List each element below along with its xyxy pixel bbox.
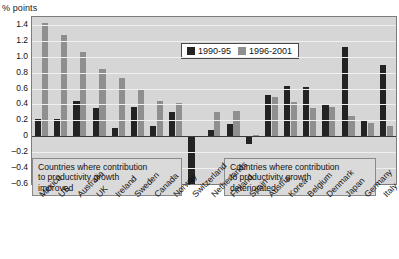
gridline [32,104,396,105]
gridline [32,120,396,121]
bar-canada-1996-2001 [157,101,163,137]
y-axis-tick-label: 0.6 [2,84,28,92]
bar-japan-1990-95 [342,47,348,136]
gridline [32,152,396,153]
bar-ireland-1990-95 [112,128,118,136]
bar-korea-1990-95 [284,86,290,136]
bar-spain-1990-95 [246,136,252,144]
bar-austria-1996-2001 [272,97,278,137]
y-axis-tick-label: 1.0 [2,52,28,60]
y-axis-unit-label: % points [2,3,37,13]
bar-germany-1996-2001 [368,123,374,137]
bar-belgium-1996-2001 [310,108,316,137]
y-axis-tick-label: –0.4 [2,163,28,171]
bar-sweden-1990-95 [131,107,137,136]
bar-finland-1996-2001 [233,111,239,136]
bar-sweden-1996-2001 [138,89,144,136]
y-axis-tick-label: –0.2 [2,147,28,155]
y-axis-tick-label: 0.8 [2,68,28,76]
gridline [32,57,396,58]
bar-italy-1990-95 [380,65,386,137]
y-axis-tick-label: –0.6 [2,179,28,187]
bar-canada-1990-95 [150,126,156,136]
bar-austria-1990-95 [265,95,271,136]
y-axis-tick-label: 1.4 [2,20,28,28]
bar-ireland-1996-2001 [119,78,125,136]
bar-mexico-1990-95 [35,119,41,137]
gridline [32,41,396,42]
bar-australia-1996-2001 [80,52,86,136]
gridline [32,25,396,26]
legend-label-series2: 1996-2001 [249,46,292,56]
x-axis-labels: MexicoUSAustraliaUKIrelandSwedenCanadaNo… [0,190,399,259]
legend-entry-1990-95: 1990-95 [187,46,231,56]
gridline [32,73,396,74]
y-axis-tick-label: 1.2 [2,36,28,44]
y-axis-tick-label: 0.2 [2,115,28,123]
legend-entry-1996-2001: 1996-2001 [238,46,292,56]
bar-norway-1990-95 [169,112,175,136]
bar-korea-1996-2001 [291,102,297,136]
bar-netherlands-1996-2001 [214,112,220,136]
bar-denmark-1996-2001 [329,107,335,136]
bar-finland-1990-95 [227,124,233,137]
y-axis-tick-label: 0.4 [2,99,28,107]
bar-australia-1990-95 [73,101,79,137]
bar-uk-1996-2001 [99,69,105,137]
bar-belgium-1990-95 [303,87,309,136]
y-axis-tick-label: 0 [2,131,28,139]
legend-label-series1: 1990-95 [198,46,231,56]
legend-swatch-icon-series2 [238,47,246,55]
gridline [32,89,396,90]
zero-axis-line [32,136,396,137]
bar-us-1990-95 [54,119,60,137]
bar-japan-1996-2001 [348,116,354,136]
bar-italy-1996-2001 [387,126,393,136]
legend-swatch-icon-series1 [187,47,195,55]
bar-germany-1990-95 [361,120,367,136]
bar-uk-1990-95 [93,108,99,137]
chart-root: % points 1990-95 1996-2001 Countries whe… [0,0,399,259]
